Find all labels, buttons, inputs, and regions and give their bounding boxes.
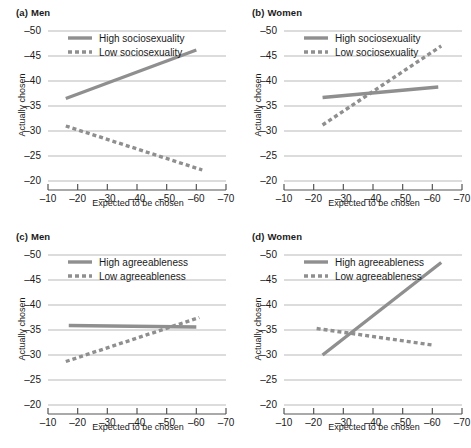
y-tick-label: –20 [24, 399, 41, 410]
y-tick-label: –50 [24, 25, 41, 36]
panel-a-xlabel: Expected to be chosen [48, 198, 228, 208]
panel-b: (b)Women –50–45–40–35–30–25–20–10–20–30–… [236, 0, 471, 224]
legend-label-low: Low agreeableness [99, 271, 186, 282]
panel-c-ylabel: Actually chosen [17, 279, 27, 379]
series-line-low [323, 46, 442, 125]
legend-label-high: High agreeableness [335, 257, 424, 268]
y-tick-label: –20 [260, 175, 277, 186]
panel-c-xlabel: Expected to be chosen [48, 422, 228, 432]
legend-label-low: Low sociosexuality [335, 47, 418, 58]
panel-d-plot: –50–45–40–35–30–25–20–10–20–30–40–50–60–… [236, 224, 471, 448]
panel-d-xlabel: Expected to be chosen [284, 422, 464, 432]
y-tick-label: –50 [260, 249, 277, 260]
panel-b-plot: –50–45–40–35–30–25–20–10–20–30–40–50–60–… [236, 0, 471, 224]
panel-c: (c)Men –50–45–40–35–30–25–20–10–20–30–40… [0, 224, 235, 448]
panel-a-ylabel: Actually chosen [17, 55, 27, 155]
series-line-high [69, 326, 197, 328]
panel-a: (a)Men –50–45–40–35–30–25–20–10–20–30–40… [0, 0, 235, 224]
legend-label-high: High sociosexuality [335, 33, 421, 44]
y-tick-label: –20 [260, 399, 277, 410]
panel-b-ylabel: Actually chosen [253, 55, 263, 155]
figure-panel-grid: (a)Men –50–45–40–35–30–25–20–10–20–30–40… [0, 0, 471, 448]
y-tick-label: –50 [24, 249, 41, 260]
legend-label-high: High agreeableness [99, 257, 188, 268]
y-tick-label: –20 [24, 175, 41, 186]
panel-b-xlabel: Expected to be chosen [284, 198, 464, 208]
panel-d-ylabel: Actually chosen [253, 279, 263, 379]
panel-d: (d)Women –50–45–40–35–30–25–20–10–20–30–… [236, 224, 471, 448]
legend-label-high: High sociosexuality [99, 33, 185, 44]
panel-a-plot: –50–45–40–35–30–25–20–10–20–30–40–50–60–… [0, 0, 235, 224]
panel-c-plot: –50–45–40–35–30–25–20–10–20–30–40–50–60–… [0, 224, 235, 448]
legend-label-low: Low sociosexuality [99, 47, 182, 58]
legend-label-low: Low agreeableness [335, 271, 422, 282]
series-line-high [323, 87, 439, 98]
y-tick-label: –50 [260, 25, 277, 36]
series-line-low [317, 329, 433, 346]
series-line-low [66, 126, 202, 170]
